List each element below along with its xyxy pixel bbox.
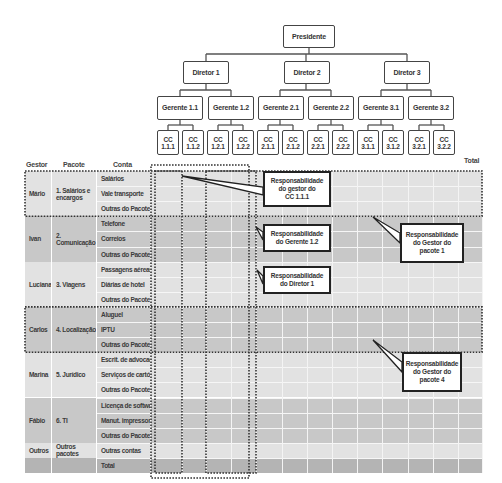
callout-pointer [373, 340, 402, 372]
callout-g12: Responsabilidadedo Gerente 1.2 [263, 224, 331, 252]
callout-cc111: Responsabilidadedo gestor doCC 1.1.1 [263, 171, 331, 207]
callout-pointer [182, 176, 263, 195]
diretor-1-outline [151, 165, 249, 478]
callout-pointer [373, 217, 400, 243]
package-4-outline [25, 307, 482, 352]
callout-pointer [256, 227, 263, 240]
package-1-outline [25, 171, 482, 216]
callout-p1: Responsabilidadedo Gestor dopacote 1 [400, 223, 464, 263]
callout-p4: Responsabilidadedo Gestor dopacote 4 [402, 352, 462, 392]
callout-d1: Responsabilidadedo Diretor 1 [263, 266, 331, 294]
